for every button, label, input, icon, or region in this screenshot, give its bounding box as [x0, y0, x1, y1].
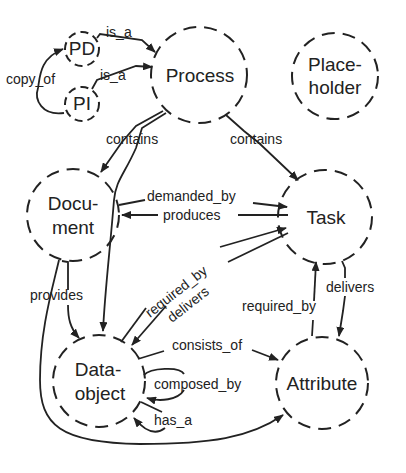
node-document[interactable]: Docu- ment — [27, 169, 119, 261]
edge-pi-isa-process[interactable]: is_a — [92, 66, 152, 89]
edge-label: produces — [163, 207, 221, 223]
edge-label: has_a — [154, 412, 192, 428]
node-placeholder-label-2: holder — [309, 77, 362, 98]
node-placeholder-label-1: Place- — [308, 54, 362, 75]
node-task-label: Task — [306, 207, 346, 228]
edge-label: consists_of — [172, 337, 242, 353]
node-document-label-2: ment — [52, 217, 95, 238]
node-document-label-1: Docu- — [48, 193, 99, 214]
edge-label: delivers — [326, 279, 374, 295]
edge-dataobject-hasa-self[interactable]: has_a — [134, 402, 192, 432]
node-attribute-label: Attribute — [287, 373, 358, 394]
edge-label: contains — [106, 131, 158, 147]
node-dataobject[interactable]: Data- object — [53, 335, 145, 427]
edge-process-contains-task[interactable]: contains — [226, 115, 298, 180]
node-pi-label: PI — [73, 93, 91, 114]
edge-label: required_by — [242, 298, 316, 314]
edge-label: copy_of — [6, 71, 55, 87]
edge-dataobject-composedby-self[interactable]: composed_by — [144, 369, 241, 400]
edge-task-produces-document[interactable]: produces — [122, 207, 288, 223]
edge-label: is_a — [106, 24, 132, 40]
node-task[interactable]: Task — [278, 170, 372, 264]
edge-label: demanded_by — [147, 188, 236, 204]
edge-attribute-requiredby-task[interactable]: required_by — [242, 262, 316, 336]
edge-label: composed_by — [154, 376, 241, 392]
node-pd-label: PD — [69, 38, 95, 59]
edge-label: contains — [230, 131, 282, 147]
edge-task-delivers-dataobject[interactable]: delivers — [132, 233, 288, 345]
edge-document-demandedby-task[interactable]: demanded_by — [119, 188, 287, 207]
node-process-label: Process — [166, 65, 235, 86]
node-placeholder[interactable]: Place- holder — [292, 33, 378, 119]
node-attribute[interactable]: Attribute — [276, 337, 368, 429]
edge-dataobject-consistsof-attribute[interactable]: consists_of — [138, 337, 278, 360]
edge-pd-isa-process[interactable]: is_a — [97, 24, 155, 52]
node-process[interactable]: Process — [151, 27, 247, 123]
edge-pi-copyof-pd[interactable]: copy_of — [6, 49, 64, 113]
edge-label: is_a — [100, 67, 126, 83]
diagram-canvas: PD PI Process Place- holder Docu- ment T… — [0, 0, 406, 473]
node-pd[interactable]: PD — [65, 32, 99, 66]
node-dataobject-label-1: Data- — [75, 359, 121, 380]
edge-task-delivers-attribute[interactable]: delivers — [326, 261, 374, 336]
node-dataobject-label-2: object — [75, 383, 126, 404]
node-pi[interactable]: PI — [65, 87, 99, 121]
edge-label: provides — [30, 287, 83, 303]
